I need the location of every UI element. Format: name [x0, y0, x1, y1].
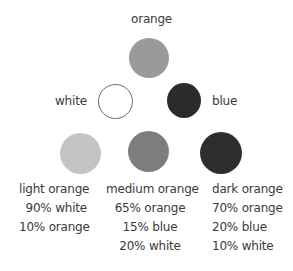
- mix-name: medium orange: [106, 180, 194, 199]
- mix-part: 10% white: [212, 237, 292, 256]
- mix-part: 65% orange: [106, 199, 194, 218]
- swatch-orange: [129, 38, 169, 78]
- swatch-medium-orange: [128, 131, 169, 172]
- mix-name: light orange: [19, 180, 87, 199]
- swatch-light-orange: [60, 133, 101, 174]
- mix-part: 90% white: [19, 199, 87, 218]
- mix-name: dark orange: [212, 180, 292, 199]
- label-orange: orange: [131, 12, 172, 26]
- mix-light-orange: light orange 90% white 10% orange: [19, 180, 87, 237]
- label-blue: blue: [212, 94, 237, 108]
- mix-part: 10% orange: [19, 218, 87, 237]
- mix-medium-orange: medium orange 65% orange 15% blue 20% wh…: [106, 180, 194, 256]
- mix-dark-orange: dark orange 70% orange 20% blue 10% whit…: [212, 180, 292, 256]
- mix-part: 20% white: [106, 237, 194, 256]
- mix-part: 20% blue: [212, 218, 292, 237]
- mix-part: 70% orange: [212, 199, 292, 218]
- mix-part: 15% blue: [106, 218, 194, 237]
- swatch-white: [98, 84, 133, 119]
- label-white: white: [55, 94, 87, 108]
- swatch-dark-orange: [200, 132, 242, 174]
- swatch-blue: [167, 83, 201, 118]
